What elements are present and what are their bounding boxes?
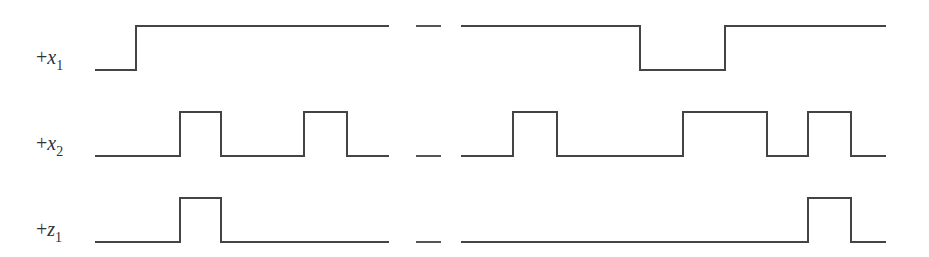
timing-diagram: +x1+x2+z1 [0, 0, 929, 257]
waveform-z1-segment-2 [461, 198, 886, 242]
signal-label-z1: +z1 [36, 218, 62, 245]
waveform-z1-segment-1 [95, 198, 389, 242]
signal-label-x1: +x1 [36, 46, 63, 73]
waveform-x2-segment-2 [461, 112, 886, 156]
waveform-x2-segment-1 [95, 112, 389, 156]
waveform-x1-segment-2 [461, 26, 886, 70]
waveform-x1-segment-1 [95, 26, 389, 70]
signal-label-x2: +x2 [36, 132, 63, 159]
